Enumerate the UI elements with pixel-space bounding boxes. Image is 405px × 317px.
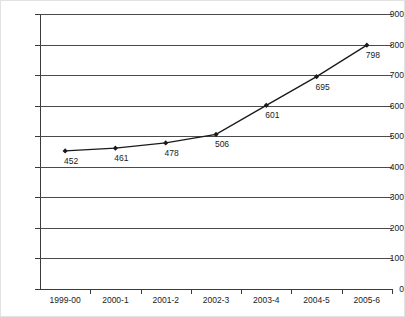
data-point-label: 798 — [366, 51, 380, 60]
data-point-marker — [264, 103, 269, 108]
data-point-label: 461 — [114, 154, 128, 163]
data-point-marker — [163, 140, 168, 145]
data-point-marker — [63, 148, 68, 153]
data-point-label: 452 — [64, 157, 78, 166]
data-point-label: 478 — [165, 149, 179, 158]
data-point-marker — [213, 132, 218, 137]
line-chart-figure: 0100200300400500600700800900 1999-002000… — [0, 0, 405, 317]
data-point-marker — [113, 146, 118, 151]
data-point-label: 695 — [315, 83, 329, 92]
data-point-label: 601 — [265, 111, 279, 120]
series-line — [1, 1, 405, 317]
data-point-label: 506 — [215, 140, 229, 149]
